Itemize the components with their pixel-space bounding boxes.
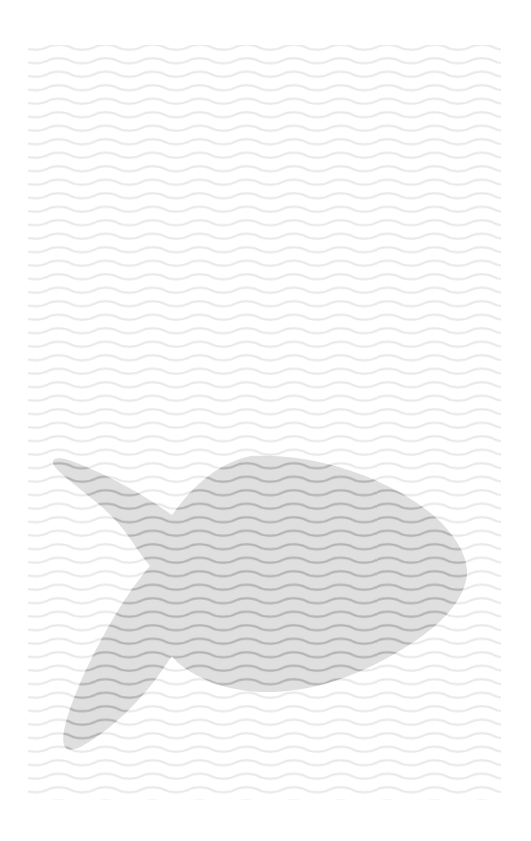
- artboard: A stylised grey fish facing right, rende…: [0, 0, 531, 841]
- fish-pattern-illustration: [0, 0, 531, 841]
